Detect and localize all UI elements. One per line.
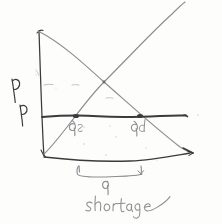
price-axis-label-upper — [12, 79, 20, 103]
price-axis-label-lower — [20, 105, 27, 126]
quantity-supplied-label — [69, 121, 82, 136]
equilibrium-crossing-node — [103, 81, 106, 84]
sketch-canvas — [0, 0, 222, 224]
quantity-axis-label — [103, 181, 109, 194]
price-ceiling-line — [42, 115, 188, 117]
ceiling-demand-intersection-node — [137, 114, 143, 118]
supply-curve — [44, 2, 185, 154]
quantity-demanded-label — [131, 120, 145, 136]
handdrawn-sketch-page: P P q qs qd shortage — [0, 0, 222, 224]
shortage-brace — [77, 166, 144, 177]
ceiling-supply-intersection-node — [73, 114, 79, 118]
horizontal-axis-quantity — [44, 153, 190, 161]
vertical-axis-price — [37, 30, 46, 157]
shortage-annotation — [86, 196, 170, 218]
